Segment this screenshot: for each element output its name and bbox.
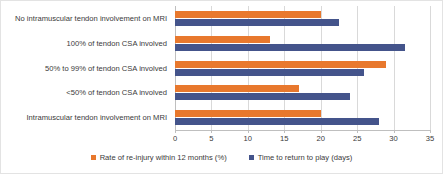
bar xyxy=(175,110,321,117)
tick-mark xyxy=(357,130,358,133)
value-axis: 05101520253035 xyxy=(175,130,430,144)
bar xyxy=(175,19,339,26)
bar xyxy=(175,69,364,76)
legend-entry[interactable]: Rate of re-injury within 12 months (%) xyxy=(91,153,227,162)
bar xyxy=(175,93,350,100)
legend-label: Time to return to play (days) xyxy=(258,153,353,162)
chart-legend: Rate of re-injury within 12 months (%)Ti… xyxy=(1,153,442,162)
value-axis-tick-label: 20 xyxy=(308,134,334,143)
bar-group xyxy=(175,85,430,100)
value-axis-tick-label: 30 xyxy=(381,134,407,143)
tick-mark xyxy=(284,130,285,133)
category-axis-label: <50% of tendon CSA involved xyxy=(1,88,167,97)
value-axis-tick-label: 35 xyxy=(417,134,443,143)
value-axis-tick-label: 15 xyxy=(271,134,297,143)
tick-mark xyxy=(211,130,212,133)
value-axis-tick-label: 25 xyxy=(344,134,370,143)
bar xyxy=(175,61,386,68)
value-axis-tick-label: 0 xyxy=(162,134,188,143)
legend-swatch-icon xyxy=(91,155,96,160)
value-axis-tick-label: 10 xyxy=(235,134,261,143)
tick-mark xyxy=(394,130,395,133)
category-axis-label: 50% to 99% of tendon CSA involved xyxy=(1,64,167,73)
value-axis-tick-label: 5 xyxy=(198,134,224,143)
tick-mark xyxy=(321,130,322,133)
bar-group xyxy=(175,61,430,76)
plot-area xyxy=(175,6,430,130)
category-axis-label: Intramuscular tendon involvement on MRI xyxy=(1,113,167,122)
legend-swatch-icon xyxy=(249,155,254,160)
category-axis-label: 100% of tendon CSA involved xyxy=(1,39,167,48)
tick-mark xyxy=(248,130,249,133)
gridline xyxy=(430,6,431,130)
bar xyxy=(175,36,270,43)
bar-chart: No intramuscular tendon involvement on M… xyxy=(0,0,443,174)
value-axis-line xyxy=(175,130,430,131)
bar-group xyxy=(175,11,430,26)
bars-layer xyxy=(175,6,430,130)
tick-mark xyxy=(175,130,176,133)
legend-entry[interactable]: Time to return to play (days) xyxy=(249,153,353,162)
bar xyxy=(175,118,379,125)
legend-label: Rate of re-injury within 12 months (%) xyxy=(100,153,227,162)
bar-group xyxy=(175,36,430,51)
bar xyxy=(175,44,405,51)
category-axis-label: No intramuscular tendon involvement on M… xyxy=(1,14,167,23)
bar xyxy=(175,11,321,18)
category-axis: No intramuscular tendon involvement on M… xyxy=(1,6,171,130)
bar xyxy=(175,85,299,92)
bar-group xyxy=(175,110,430,125)
tick-mark xyxy=(430,130,431,133)
